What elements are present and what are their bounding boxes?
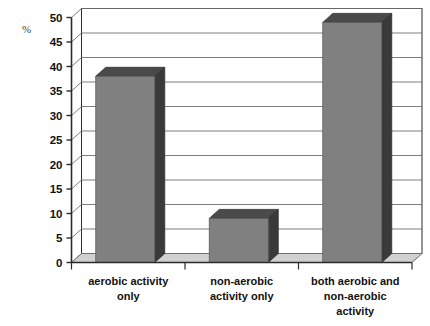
y-axis-tick-label: 30 bbox=[50, 110, 63, 122]
bar-column bbox=[209, 209, 278, 262]
y-axis-tick-label: 45 bbox=[50, 36, 63, 48]
y-axis-unit-label: % bbox=[22, 23, 31, 35]
y-axis-tick-label: 5 bbox=[56, 232, 63, 244]
bar-column bbox=[96, 67, 165, 262]
y-axis-tick-label: 25 bbox=[50, 134, 63, 146]
chart-container: 05101520253035404550 % aerobic activityo… bbox=[0, 0, 430, 326]
category-label-line: non-aerobic bbox=[324, 290, 387, 302]
category-label-line: activity bbox=[336, 305, 375, 317]
y-axis-tick-label: 15 bbox=[50, 183, 63, 195]
bar-column bbox=[323, 13, 392, 262]
y-axis-tick-label: 20 bbox=[50, 159, 63, 171]
category-label-line: only bbox=[117, 290, 140, 302]
category-label-line: activity only bbox=[210, 290, 274, 302]
category-label-line: both aerobic and bbox=[311, 275, 400, 287]
bar-chart: 05101520253035404550 % aerobic activityo… bbox=[0, 0, 430, 326]
y-axis-tick-label: 0 bbox=[56, 257, 62, 269]
category-label-line: aerobic activity bbox=[88, 275, 169, 287]
y-axis-tick-label: 35 bbox=[50, 85, 63, 97]
category-label-line: non-aerobic bbox=[210, 275, 273, 287]
y-axis-tick-label: 50 bbox=[50, 12, 63, 24]
y-axis-tick-label: 40 bbox=[50, 61, 63, 73]
y-axis-tick-label: 10 bbox=[50, 208, 63, 220]
